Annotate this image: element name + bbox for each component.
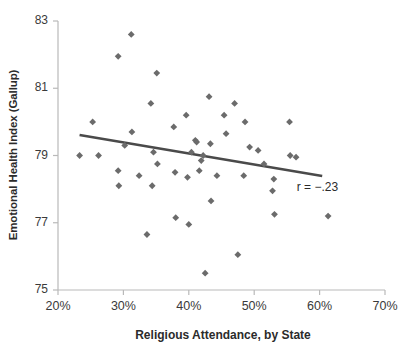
data-point — [115, 167, 122, 174]
data-point — [150, 149, 157, 156]
data-point — [172, 214, 179, 221]
data-point — [255, 147, 262, 154]
data-point — [149, 182, 156, 189]
data-point — [287, 152, 294, 159]
data-point — [269, 187, 276, 194]
data-point — [202, 270, 209, 277]
data-point — [172, 169, 179, 176]
x-axis-title: Religious Attendance, by State — [58, 328, 388, 342]
data-point — [128, 31, 135, 38]
data-point — [206, 93, 213, 100]
data-point — [196, 167, 203, 174]
data-point — [234, 251, 241, 258]
data-point — [271, 211, 278, 218]
data-point — [325, 213, 332, 220]
data-point — [286, 118, 293, 125]
data-point — [185, 221, 192, 228]
data-point — [231, 100, 238, 107]
data-point — [89, 118, 96, 125]
data-point — [144, 231, 151, 238]
data-point — [129, 129, 136, 136]
data-point — [154, 161, 161, 168]
data-point — [214, 172, 221, 179]
data-point — [223, 130, 230, 137]
data-point — [170, 124, 177, 131]
data-point — [183, 112, 190, 119]
data-point — [293, 154, 300, 161]
data-point — [208, 197, 215, 204]
data-point — [221, 112, 228, 119]
data-point — [240, 172, 247, 179]
data-point — [153, 70, 160, 77]
data-point — [115, 182, 122, 189]
plot-canvas — [0, 0, 405, 353]
data-point — [76, 152, 83, 159]
data-point — [270, 176, 277, 183]
data-point — [136, 172, 143, 179]
data-point — [184, 174, 191, 181]
data-point — [207, 140, 214, 147]
data-point — [147, 100, 154, 107]
data-point — [95, 152, 102, 159]
data-point — [246, 144, 253, 151]
data-point — [242, 118, 249, 125]
data-point — [115, 53, 122, 60]
scatter-chart: Emotional Health Index (Gallup) 75777981… — [0, 0, 405, 353]
data-points — [76, 31, 331, 277]
correlation-annotation: r = −.23 — [297, 180, 338, 194]
